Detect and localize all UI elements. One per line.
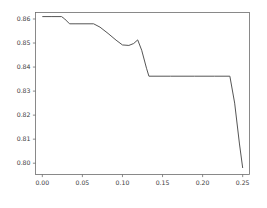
x-tick-label: 0.25 — [236, 179, 250, 186]
x-axis-ticks: 0.000.050.100.150.200.25 — [35, 175, 249, 187]
x-tick-label: 0.20 — [196, 179, 210, 186]
y-tick-label: 0.86 — [17, 15, 31, 22]
y-tick-label: 0.85 — [17, 39, 31, 46]
y-tick-label: 0.80 — [17, 159, 31, 166]
x-tick-label: 0.00 — [35, 179, 49, 186]
y-tick-label: 0.84 — [17, 63, 31, 70]
y-tick-label: 0.82 — [17, 111, 31, 118]
matplotlib-figure: 0.000.050.100.150.200.25 0.800.810.820.8… — [0, 0, 267, 208]
x-tick-label: 0.05 — [75, 179, 89, 186]
y-tick-label: 0.83 — [17, 87, 31, 94]
x-tick-label: 0.15 — [156, 179, 170, 186]
y-tick-label: 0.81 — [17, 135, 31, 142]
y-axis-ticks: 0.800.810.820.830.840.850.86 — [17, 15, 36, 166]
line-chart: 0.000.050.100.150.200.25 0.800.810.820.8… — [0, 0, 267, 208]
x-tick-label: 0.10 — [116, 179, 130, 186]
plot-background — [36, 13, 250, 175]
